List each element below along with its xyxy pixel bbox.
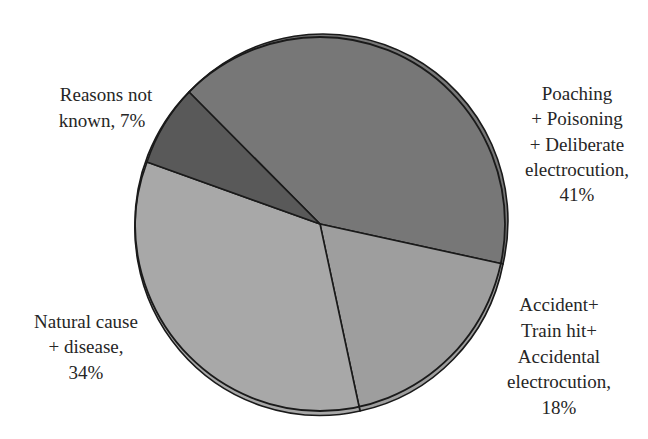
label-line: + Deliberate (530, 134, 625, 155)
label-line: Accident+ (519, 294, 598, 315)
label-line: Train hit+ (521, 320, 597, 341)
data-label-natural-cause: Natural cause + disease, 34% (34, 311, 138, 383)
label-line: 18% (542, 397, 577, 418)
label-line: 41% (560, 184, 595, 205)
label-line: Natural cause (34, 311, 138, 332)
label-line: electrocution, (507, 371, 611, 392)
label-line: Accidental (518, 346, 600, 367)
label-line: + Poisoning (531, 108, 623, 129)
label-line: Poaching (542, 83, 613, 104)
pie-chart: Poaching + Poisoning + Deliberate electr… (0, 0, 648, 439)
data-label-poaching: Poaching + Poisoning + Deliberate electr… (525, 83, 629, 205)
label-line: Reasons not (60, 84, 153, 105)
data-label-reasons-not-known: Reasons not known, 7% (59, 84, 153, 131)
label-line: known, 7% (59, 110, 146, 131)
label-line: + disease, (48, 336, 123, 357)
data-label-accident: Accident+ Train hit+ Accidental electroc… (507, 294, 611, 418)
label-line: 34% (69, 362, 104, 383)
label-line: electrocution, (525, 159, 629, 180)
pie-slices (135, 34, 508, 415)
